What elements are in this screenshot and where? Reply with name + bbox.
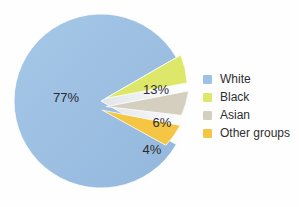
legend-item-white[interactable]: White	[203, 71, 299, 88]
legend-item-black[interactable]: Black	[203, 89, 299, 106]
legend-label-other-groups: Other groups	[220, 127, 290, 140]
pie-chart-figure: 77% 13% 6% 4% White Black Asian Other gr…	[0, 0, 299, 207]
legend-swatch-other-groups	[203, 129, 212, 138]
pie-label-black: 13%	[143, 82, 169, 97]
legend-item-other-groups[interactable]: Other groups	[203, 125, 299, 142]
legend-label-black: Black	[220, 91, 249, 104]
chart-legend: White Black Asian Other groups	[203, 71, 299, 143]
legend-item-asian[interactable]: Asian	[203, 107, 299, 124]
legend-label-asian: Asian	[220, 109, 250, 122]
legend-swatch-white	[203, 75, 212, 84]
legend-swatch-asian	[203, 111, 212, 120]
pie-chart-svg: 77% 13% 6% 4%	[0, 0, 200, 207]
pie-label-other-groups: 4%	[143, 142, 162, 157]
legend-label-white: White	[220, 73, 251, 86]
pie-label-asian: 6%	[153, 115, 172, 130]
pie-label-white: 77%	[53, 90, 79, 105]
legend-swatch-black	[203, 93, 212, 102]
pie-chart-plot-area: 77% 13% 6% 4%	[0, 0, 200, 207]
